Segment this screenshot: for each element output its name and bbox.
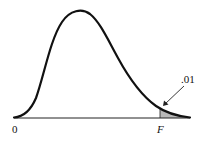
- density-curve: [14, 11, 190, 118]
- tail-area-label: .01: [181, 74, 195, 85]
- critical-value-label: F: [157, 124, 164, 135]
- f-distribution-chart: [0, 0, 205, 143]
- origin-tick-label: 0: [12, 124, 18, 135]
- annotation-arrow: [165, 86, 184, 104]
